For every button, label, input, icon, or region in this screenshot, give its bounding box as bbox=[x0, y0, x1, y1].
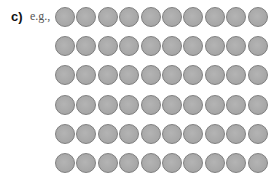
circle-dot bbox=[141, 7, 161, 27]
circle-dot bbox=[205, 7, 225, 27]
circle-dot bbox=[248, 36, 268, 56]
circle-dot bbox=[55, 7, 75, 27]
circle-dot bbox=[98, 65, 118, 85]
circle-dot bbox=[162, 36, 182, 56]
circle-dot bbox=[248, 95, 268, 115]
circle-dot bbox=[55, 36, 75, 56]
circle-dot bbox=[141, 124, 161, 144]
circle-dot bbox=[205, 65, 225, 85]
item-label: c) bbox=[11, 9, 23, 24]
circle-dot bbox=[248, 153, 268, 173]
circle-dot bbox=[119, 153, 139, 173]
circle-dot bbox=[162, 153, 182, 173]
circle-dot bbox=[248, 65, 268, 85]
circle-dot bbox=[141, 36, 161, 56]
circle-dot bbox=[183, 95, 203, 115]
circle-dot bbox=[55, 124, 75, 144]
circle-dot bbox=[248, 7, 268, 27]
circle-dot bbox=[55, 95, 75, 115]
circle-dot bbox=[183, 36, 203, 56]
circle-dot bbox=[205, 36, 225, 56]
circle-dot bbox=[226, 65, 246, 85]
circle-dot bbox=[119, 95, 139, 115]
circle-dot bbox=[162, 124, 182, 144]
circle-dot bbox=[183, 7, 203, 27]
circle-dot bbox=[205, 95, 225, 115]
circle-dot bbox=[55, 153, 75, 173]
circle-dot bbox=[98, 95, 118, 115]
circle-dot bbox=[76, 65, 96, 85]
circle-dot bbox=[119, 124, 139, 144]
circle-dot bbox=[141, 95, 161, 115]
circle-dot bbox=[226, 153, 246, 173]
circle-dot bbox=[119, 65, 139, 85]
circle-dot bbox=[248, 124, 268, 144]
circle-dot bbox=[141, 153, 161, 173]
circle-dot bbox=[76, 124, 96, 144]
circle-dot bbox=[205, 153, 225, 173]
circle-dot bbox=[98, 153, 118, 173]
circle-dot bbox=[98, 124, 118, 144]
circle-dot bbox=[226, 95, 246, 115]
circle-dot bbox=[141, 65, 161, 85]
circle-dot bbox=[76, 95, 96, 115]
circle-dot bbox=[183, 124, 203, 144]
circle-dot bbox=[183, 153, 203, 173]
circle-dot bbox=[98, 7, 118, 27]
circle-dot bbox=[162, 7, 182, 27]
circle-dot bbox=[98, 36, 118, 56]
circle-dot bbox=[119, 7, 139, 27]
circle-dot bbox=[162, 65, 182, 85]
circle-dot bbox=[162, 95, 182, 115]
circle-dot bbox=[55, 65, 75, 85]
example-text: e.g., bbox=[30, 9, 50, 24]
circle-dot bbox=[226, 36, 246, 56]
circle-dot bbox=[183, 65, 203, 85]
circle-dot bbox=[226, 124, 246, 144]
circle-dot bbox=[76, 36, 96, 56]
circle-dot bbox=[205, 124, 225, 144]
circle-dot bbox=[119, 36, 139, 56]
circle-dot bbox=[76, 7, 96, 27]
circle-dot bbox=[226, 7, 246, 27]
circle-dot bbox=[76, 153, 96, 173]
